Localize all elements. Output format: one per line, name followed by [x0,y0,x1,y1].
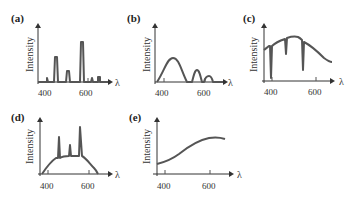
tick-400-b: 400 [155,88,169,98]
tick-600-c: 600 [308,87,322,97]
ylabel-d: Intensity [24,129,35,164]
chart-d: 400 600 λ Intensity [0,100,115,201]
panel-c: (c) 400 600 λ Intensity [232,0,352,100]
chart-e: 400 600 λ Intensity [115,100,245,201]
panel-e: (e) 400 600 λ Intensity [115,100,245,201]
panel-a: (a) 400 600 λ Intensity [0,0,115,100]
tick-600-b: 600 [197,88,211,98]
tick-400-a: 400 [38,88,52,98]
chart-a: 400 600 λ Intensity [0,0,115,100]
panel-b: (b) 400 600 λ Intensity [115,0,232,100]
ylabel-e: Intensity [141,129,152,164]
ylabel-a: Intensity [24,37,35,72]
tick-400-e: 400 [157,181,171,191]
ylabel-c: Intensity [248,37,259,72]
xlabel-e: λ [237,169,242,180]
ylabel-b: Intensity [141,37,152,72]
tick-400-d: 400 [40,181,54,191]
tick-600-d: 600 [81,181,95,191]
chart-c: 400 600 λ Intensity [232,0,352,100]
tick-600-e: 600 [202,181,216,191]
tick-600-a: 600 [79,88,93,98]
tick-400-c: 400 [264,87,278,97]
panel-d: (d) 400 600 λ Intensity [0,100,115,201]
xlabel-c: λ [339,76,344,87]
chart-b: 400 600 λ Intensity [115,0,232,100]
